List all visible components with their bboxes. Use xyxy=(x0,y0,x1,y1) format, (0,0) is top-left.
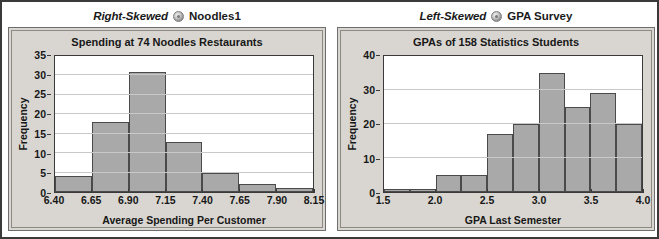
gridline xyxy=(384,123,642,124)
bar xyxy=(410,189,436,192)
bar xyxy=(239,184,276,192)
x-tick-label: 8.15 xyxy=(304,194,324,206)
x-tick-mark xyxy=(128,189,129,193)
gridline xyxy=(384,55,642,56)
y-axis-label-text: Frequency xyxy=(17,97,29,150)
x-tick-label: 6.90 xyxy=(118,194,138,206)
skew-label: Left-Skewed xyxy=(420,10,487,22)
y-axis-label-text: Frequency xyxy=(346,97,358,150)
plot-area-noodles xyxy=(54,55,314,193)
y-tick-label: 40 xyxy=(363,49,375,61)
dataset-label: GPA Survey xyxy=(507,10,572,22)
x-tick-mark xyxy=(539,189,540,193)
x-tick-label: 7.90 xyxy=(267,194,287,206)
x-tick-label: 7.65 xyxy=(229,194,249,206)
x-tick-label: 1.5 xyxy=(376,194,391,206)
plot-wrap-gpa: Frequency 010203040 1.52.02.53.03.54.0 G… xyxy=(341,55,645,227)
gridline xyxy=(55,152,313,153)
y-tick-label: 10 xyxy=(363,153,375,165)
bars-group xyxy=(384,56,642,192)
x-tick-label: 3.0 xyxy=(532,194,547,206)
y-tick-label: 35 xyxy=(34,49,46,61)
gridline xyxy=(55,94,313,95)
disc-icon xyxy=(173,11,184,22)
chart-inner-noodles: Spending at 74 Noodles Restaurants Frequ… xyxy=(11,30,323,228)
bar xyxy=(513,124,539,192)
x-axis-ticks: 6.406.656.907.157.407.657.908.15 xyxy=(54,193,314,209)
bar xyxy=(384,189,410,192)
disc-icon xyxy=(491,11,502,22)
plot-wrap-noodles: Frequency 05101520253035 6.406.656.907.1… xyxy=(12,55,316,227)
panel-left-skewed: Left-Skewed GPA Survey GPAs of 158 Stati… xyxy=(337,5,655,233)
y-tick-label: 20 xyxy=(34,108,46,120)
x-axis-label: Average Spending Per Customer xyxy=(54,214,314,226)
x-tick-mark xyxy=(276,189,277,193)
panel-container: Right-Skewed Noodles1 Spending at 74 Noo… xyxy=(8,5,655,233)
plot-area-gpa xyxy=(383,55,643,193)
x-tick-label: 2.5 xyxy=(480,194,495,206)
bar xyxy=(276,188,313,192)
gridline xyxy=(55,74,313,75)
gridline xyxy=(55,133,313,134)
y-axis-ticks: 010203040 xyxy=(359,55,379,193)
x-tick-label: 4.0 xyxy=(636,194,651,206)
y-tick-label: 30 xyxy=(363,84,375,96)
y-tick-label: 5 xyxy=(40,167,46,179)
gridline xyxy=(384,89,642,90)
x-tick-mark xyxy=(487,189,488,193)
x-tick-label: 3.5 xyxy=(584,194,599,206)
y-tick-label: 0 xyxy=(369,187,375,199)
y-tick-label: 15 xyxy=(34,128,46,140)
x-axis-label: GPA Last Semester xyxy=(383,214,643,226)
gridline xyxy=(55,113,313,114)
x-tick-mark xyxy=(202,189,203,193)
bar xyxy=(461,175,487,192)
bar xyxy=(202,173,239,192)
chart-title: GPAs of 158 Statistics Students xyxy=(341,36,651,48)
skew-label: Right-Skewed xyxy=(93,10,168,22)
gridline xyxy=(55,172,313,173)
gridline xyxy=(384,157,642,158)
chart-inner-gpa: GPAs of 158 Statistics Students Frequenc… xyxy=(340,30,652,228)
x-tick-mark xyxy=(643,189,644,193)
bar xyxy=(55,176,92,192)
panel-right-skewed: Right-Skewed Noodles1 Spending at 74 Noo… xyxy=(8,5,326,233)
y-tick-label: 20 xyxy=(363,118,375,130)
y-axis-ticks: 05101520253035 xyxy=(30,55,50,193)
y-tick-label: 30 xyxy=(34,69,46,81)
bar xyxy=(166,142,203,193)
x-tick-mark xyxy=(239,189,240,193)
x-tick-mark xyxy=(54,189,55,193)
y-tick-label: 10 xyxy=(34,148,46,160)
panel-header-right-skewed: Right-Skewed Noodles1 xyxy=(8,5,326,27)
bar xyxy=(590,93,616,192)
x-tick-label: 2.0 xyxy=(428,194,443,206)
gridline xyxy=(55,55,313,56)
x-tick-label: 6.65 xyxy=(81,194,101,206)
bar xyxy=(565,107,591,192)
x-tick-mark xyxy=(383,189,384,193)
x-tick-mark xyxy=(91,189,92,193)
x-tick-label: 7.40 xyxy=(192,194,212,206)
x-tick-mark xyxy=(591,189,592,193)
bar xyxy=(616,124,642,192)
x-tick-label: 6.40 xyxy=(44,194,64,206)
y-axis-label: Frequency xyxy=(16,55,30,193)
bar xyxy=(436,175,462,192)
chart-title: Spending at 74 Noodles Restaurants xyxy=(12,36,322,48)
x-tick-mark xyxy=(165,189,166,193)
x-tick-label: 7.15 xyxy=(155,194,175,206)
chart-box-gpa: GPAs of 158 Statistics Students Frequenc… xyxy=(337,27,655,231)
x-tick-mark xyxy=(435,189,436,193)
dataset-label: Noodles1 xyxy=(189,10,241,22)
bar xyxy=(539,73,565,192)
chart-box-noodles: Spending at 74 Noodles Restaurants Frequ… xyxy=(8,27,326,231)
x-tick-mark xyxy=(314,189,315,193)
bar xyxy=(487,134,513,192)
x-axis-ticks: 1.52.02.53.03.54.0 xyxy=(383,193,643,209)
histogram-comparison-figure: Right-Skewed Noodles1 Spending at 74 Noo… xyxy=(0,0,659,239)
y-axis-label: Frequency xyxy=(345,55,359,193)
y-tick-label: 25 xyxy=(34,88,46,100)
panel-header-left-skewed: Left-Skewed GPA Survey xyxy=(337,5,655,27)
